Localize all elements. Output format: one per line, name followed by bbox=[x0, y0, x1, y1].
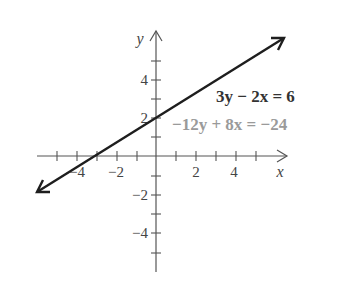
x-axis: −4 −2 2 4 x bbox=[37, 150, 287, 180]
equation-equivalent-label: −12y + 8x = −24 bbox=[172, 115, 288, 134]
y-tick-label-neg4: −4 bbox=[132, 225, 148, 241]
x-tick-label-neg2: −2 bbox=[108, 164, 124, 180]
y-axis-label: y bbox=[134, 30, 144, 48]
equation-primary-label: 3y − 2x = 6 bbox=[216, 87, 295, 106]
x-tick-label-2: 2 bbox=[192, 164, 200, 180]
x-tick-label-4: 4 bbox=[230, 164, 238, 180]
y-tick-label-4: 4 bbox=[141, 72, 149, 88]
x-axis-label: x bbox=[275, 163, 283, 180]
y-tick-label-neg2: −2 bbox=[132, 187, 148, 203]
line-chart: −4 −2 2 4 x 4 2 −2 −4 y 3y − 2 bbox=[0, 0, 348, 282]
